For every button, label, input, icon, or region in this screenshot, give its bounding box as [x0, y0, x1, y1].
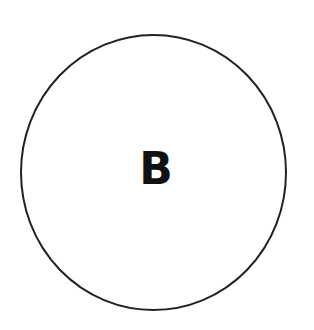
node-b-label: B	[139, 143, 173, 194]
node-b: B	[21, 35, 286, 310]
diagram-canvas: B	[0, 0, 314, 330]
